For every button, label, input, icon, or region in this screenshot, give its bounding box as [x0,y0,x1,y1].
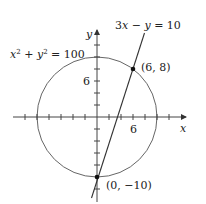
x-tick-label-6: 6 [130,123,137,136]
circle-equation-label: x2 + y2 = 100 [10,48,85,61]
diagram-canvas: y x 6 6 x2 + y2 = 100 3x − y = 10 (6, 8)… [0,0,206,204]
y-tick-label-6: 6 [83,75,90,88]
line-equation-label: 3x − y = 10 [115,19,181,32]
intersection-point-6-8 [131,67,136,72]
y-axis-label: y [85,28,93,41]
point-label-0-neg10: (0, −10) [106,179,152,192]
intersection-point-0-neg10 [95,175,100,180]
point-label-6-8: (6, 8) [141,61,171,74]
x-axis-label: x [180,122,187,135]
